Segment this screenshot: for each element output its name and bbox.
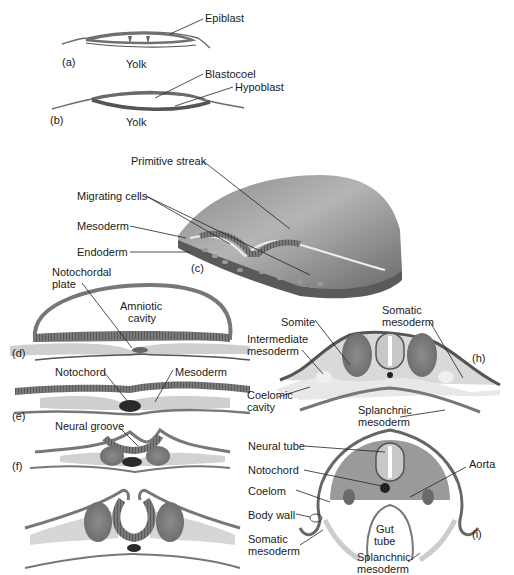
- label-blastocoel: Blastocoel: [205, 68, 256, 80]
- label-yolk-a: Yolk: [126, 58, 146, 70]
- panel-tag-a: (a): [62, 56, 75, 68]
- label-intermediate-2: mesoderm: [247, 345, 299, 357]
- label-body-wall: Body wall: [248, 509, 295, 521]
- label-mesoderm-c: Mesoderm: [77, 220, 129, 232]
- label-coelomic-2: cavity: [247, 401, 275, 413]
- label-neural-tube: Neural tube: [248, 440, 305, 452]
- panel-tag-f: (f): [12, 460, 22, 472]
- label-splanchnic-i-1: Splanchnic: [357, 551, 411, 563]
- panel-h-section: [275, 332, 500, 412]
- panel-e-section: [15, 382, 250, 415]
- panel-c-primitive-streak: [178, 175, 402, 298]
- panel-a-blastodisc: [62, 32, 210, 48]
- panel-b-blastodisc: [52, 92, 244, 109]
- label-notochordal-1: Notochordal: [52, 266, 111, 278]
- label-migrating-cells: Migrating cells: [77, 190, 147, 202]
- label-splanchnic-h-2: mesoderm: [358, 416, 410, 428]
- panel-g-section: [25, 490, 240, 568]
- label-yolk-b: Yolk: [126, 116, 146, 128]
- label-notochord-e: Notochord: [55, 366, 106, 378]
- label-splanchnic-i-2: mesoderm: [357, 563, 409, 575]
- label-somatic-h-2: mesoderm: [382, 316, 434, 328]
- panel-f-section: [30, 430, 230, 472]
- label-notochordal-2: plate: [52, 278, 76, 290]
- label-splanchnic-h-1: Splanchnic: [358, 404, 412, 416]
- label-somite: Somite: [281, 316, 315, 328]
- panel-tag-b: (b): [50, 114, 63, 126]
- label-coelomic-1: Coelomic: [247, 389, 293, 401]
- panel-tag-h: (h): [472, 352, 485, 364]
- label-intermediate-1: Intermediate: [247, 333, 308, 345]
- panel-tag-c: (c): [191, 262, 204, 274]
- label-epiblast: Epiblast: [205, 12, 244, 24]
- label-primitive-streak: Primitive streak: [131, 155, 206, 167]
- label-gut-1: Gut: [376, 523, 394, 535]
- label-notochord-i: Notochord: [248, 464, 299, 476]
- embryo-development-diagram: Epiblast (a) Yolk Blastocoel Hypoblast (…: [0, 0, 514, 575]
- label-gut-2: tube: [374, 535, 395, 547]
- label-hypoblast: Hypoblast: [235, 81, 284, 93]
- panel-tag-d: (d): [12, 347, 25, 359]
- panel-tag-e: (e): [12, 410, 25, 422]
- label-endoderm: Endoderm: [77, 246, 128, 258]
- label-amniotic-1: Amniotic: [120, 300, 162, 312]
- panel-tag-i: (i): [472, 528, 482, 540]
- label-somatic-i-2: mesoderm: [248, 545, 300, 557]
- label-amniotic-2: cavity: [128, 312, 156, 324]
- label-aorta: Aorta: [469, 458, 495, 470]
- label-somatic-h-1: Somatic: [382, 304, 422, 316]
- label-coelom: Coelom: [248, 485, 286, 497]
- label-somatic-i-1: Somatic: [248, 533, 288, 545]
- label-mesoderm-e: Mesoderm: [175, 366, 227, 378]
- label-neural-groove: Neural groove: [55, 420, 124, 432]
